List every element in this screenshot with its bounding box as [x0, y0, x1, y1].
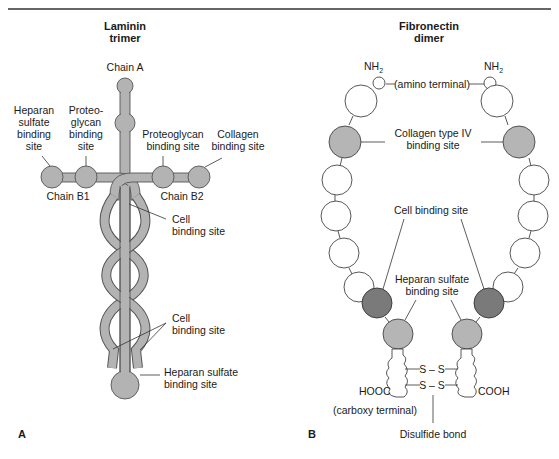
svg-text:(amino terminal): (amino terminal): [394, 78, 470, 90]
fibronectin-dimer-panel: Fibronectin dimer NH2 NH2: [308, 20, 549, 440]
proteoglycan-left-label: Proteo- glycan binding site: [69, 104, 104, 166]
svg-text:Disulfide bond: Disulfide bond: [400, 428, 467, 440]
svg-text:binding site: binding site: [146, 140, 199, 152]
svg-text:Collagen: Collagen: [217, 128, 259, 140]
svg-text:sulfate: sulfate: [19, 116, 50, 128]
disulfide-bridges: S – S S – S: [405, 363, 458, 391]
chain-b2-label: Chain B2: [160, 190, 203, 202]
svg-text:Cell: Cell: [172, 213, 190, 225]
svg-text:binding site: binding site: [405, 285, 458, 297]
collagen-iv-label: Collagen type IV binding site: [361, 127, 503, 151]
diagram-canvas: Laminin trimer Chain A: [0, 0, 559, 459]
proteoglycan-right-label: Proteoglycan binding site: [142, 128, 203, 166]
panel-a-letter: A: [18, 428, 26, 440]
svg-text:Heparan sulfate: Heparan sulfate: [164, 366, 238, 378]
svg-text:Cell: Cell: [172, 312, 190, 324]
svg-text:binding site: binding site: [172, 225, 225, 237]
svg-text:binding: binding: [17, 128, 51, 140]
svg-text:binding site: binding site: [164, 378, 217, 390]
heparan-top-label: Heparan sulfate binding site: [14, 104, 54, 166]
svg-text:site: site: [78, 140, 95, 152]
fibronectin-left-chain: [321, 77, 413, 397]
amino-terminal-label: (amino terminal): [386, 78, 484, 90]
svg-text:Cell binding site: Cell binding site: [394, 204, 468, 216]
laminin-title-line1: Laminin: [104, 20, 146, 32]
figure-laminin-fibronectin: Laminin trimer Chain A: [0, 0, 559, 459]
svg-text:Heparan sulfate: Heparan sulfate: [395, 273, 469, 285]
laminin-title-line2: trimer: [109, 32, 141, 44]
laminin-trimer-panel: Laminin trimer Chain A: [14, 20, 265, 440]
heparan-bottom-label: Heparan sulfate binding site: [140, 366, 238, 390]
svg-text:binding: binding: [69, 128, 103, 140]
svg-text:glycan: glycan: [71, 116, 102, 128]
chain-a-label: Chain A: [107, 61, 144, 73]
disulfide-bond-label: Disulfide bond: [400, 395, 467, 440]
svg-text:S – S: S – S: [419, 379, 445, 391]
svg-text:site: site: [26, 140, 43, 152]
coiled-coil-helix: [105, 186, 146, 376]
cooh-label: COOH: [478, 385, 510, 397]
svg-text:Collagen type IV: Collagen type IV: [394, 127, 471, 139]
svg-text:Proteo-: Proteo-: [69, 104, 104, 116]
svg-text:binding site: binding site: [172, 324, 225, 336]
nh2-right-label: NH2: [484, 60, 503, 74]
carboxy-terminal-label: (carboxy terminal): [333, 404, 417, 416]
svg-text:Heparan: Heparan: [14, 104, 54, 116]
heparan-sulfate-label: Heparan sulfate binding site: [395, 273, 469, 320]
chain-b1-label: Chain B1: [46, 190, 89, 202]
nh2-left-label: NH2: [364, 60, 383, 74]
hooc-label: HOOC: [359, 385, 391, 397]
collagen-label: Collagen binding site: [205, 128, 265, 167]
svg-text:S – S: S – S: [419, 363, 445, 375]
fibronectin-title-line1: Fibronectin: [399, 20, 459, 32]
svg-text:binding site: binding site: [406, 139, 459, 151]
svg-text:binding site: binding site: [211, 140, 264, 152]
svg-text:Proteoglycan: Proteoglycan: [142, 128, 203, 140]
panel-b-letter: B: [308, 428, 316, 440]
fibronectin-title-line2: dimer: [414, 32, 445, 44]
